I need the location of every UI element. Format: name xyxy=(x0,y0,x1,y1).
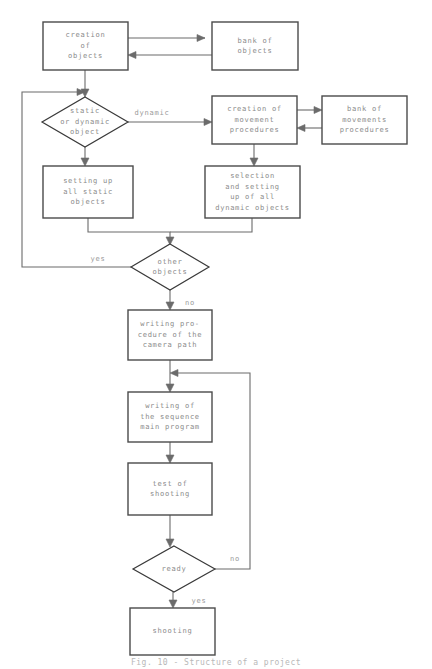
edge-other-no-to-camera xyxy=(166,290,174,310)
node-label-line: selection xyxy=(230,171,275,180)
node-writing-procedure-of-the-camera-path: writing pro-cedure of thecamera path xyxy=(128,310,212,360)
node-ready: ready xyxy=(133,546,215,592)
edge-creation-to-bank-arrowhead xyxy=(197,35,205,42)
edge-ready-no-loop-arrowhead xyxy=(170,370,178,377)
edge-other-no-to-camera-arrowhead xyxy=(166,302,174,310)
node-label-line: dynamic objects xyxy=(215,203,290,212)
label-yes-other-objects: yes xyxy=(91,254,106,263)
node-label-line: writing pro- xyxy=(140,319,200,328)
edge-camera-to-sequence-arrowhead xyxy=(166,384,174,392)
node-writing-of-the-sequence-main-program: writing ofthe sequencemain program xyxy=(128,392,212,442)
edge-sequence-to-test-arrowhead xyxy=(166,455,174,463)
node-setting-up-all-static-objects: setting upall staticobjects xyxy=(43,166,133,218)
edge-movement-to-selection-arrowhead xyxy=(250,158,258,166)
node-label-line: cedure of the xyxy=(138,330,203,339)
edge-bank-to-creation-arrowhead xyxy=(128,52,136,59)
label-no-ready: no xyxy=(230,554,240,563)
node-creation-of-movement-procedures: creation ofmovementprocedures xyxy=(212,96,297,144)
node-label-line: up of all xyxy=(230,192,275,201)
node-label-line: main program xyxy=(140,422,200,431)
node-label-line: creation xyxy=(66,30,106,39)
node-label-line: camera path xyxy=(143,340,198,349)
edge-static-setup-to-other xyxy=(88,218,174,245)
node-label-line: static xyxy=(70,106,100,115)
node-label-line: objects xyxy=(71,197,106,206)
node-label-line: all static xyxy=(63,187,113,196)
figure-caption: Fig. 10 - Structure of a project xyxy=(0,658,432,667)
node-test-of-shooting: test ofshooting xyxy=(128,463,212,515)
edge-movement-to-bank-movements xyxy=(297,107,322,114)
flowchart-page: creationofobjectsbank ofobjectsstaticor … xyxy=(0,0,432,669)
node-label-line: setting up xyxy=(63,176,113,185)
node-label-line: movement xyxy=(235,115,275,124)
node-shooting: shooting xyxy=(130,608,215,655)
node-label-line: and setting xyxy=(225,182,280,191)
node-selection-and-setting-up-of-all-dynamic-objects: selectionand settingup of alldynamic obj… xyxy=(205,166,300,218)
node-label-line: shooting xyxy=(153,626,193,635)
edge-ready-yes-to-shooting-arrowhead xyxy=(169,600,177,608)
node-label-line: of xyxy=(81,41,91,50)
edge-camera-to-sequence xyxy=(166,360,174,392)
node-label-line: or dynamic xyxy=(60,117,110,126)
node-label-line: shooting xyxy=(150,489,190,498)
edge-decision-to-movement xyxy=(128,119,212,126)
edge-bank-to-creation xyxy=(128,52,212,59)
node-label-line: object xyxy=(70,127,100,136)
nodes-layer: creationofobjectsbank ofobjectsstaticor … xyxy=(42,22,407,655)
node-label-line: procedures xyxy=(230,125,280,134)
node-static-or-dynamic-object: staticor dynamicobject xyxy=(42,97,128,147)
edge-selection-to-other xyxy=(170,218,252,232)
node-label-line: other xyxy=(158,257,183,266)
label-dynamic: dynamic xyxy=(135,108,170,117)
edge-test-to-ready-arrowhead xyxy=(166,539,174,547)
flowchart-canvas: creationofobjectsbank ofobjectsstaticor … xyxy=(0,0,432,669)
node-label-line: ready xyxy=(162,564,187,573)
node-label-line: creation of xyxy=(227,104,282,113)
label-no-other-objects: no xyxy=(185,298,195,307)
node-label-line: procedures xyxy=(340,125,390,134)
edge-ready-yes-to-shooting xyxy=(169,592,177,608)
node-bank-of-objects: bank ofobjects xyxy=(212,22,298,70)
edge-decision-to-static-setup-arrowhead xyxy=(81,158,89,166)
edge-decision-to-movement-arrowhead xyxy=(204,119,212,126)
node-creation-of-objects: creationofobjects xyxy=(43,22,128,70)
node-label-line: writing of xyxy=(145,401,195,410)
node-bank-of-movements-procedures: bank ofmovementsprocedures xyxy=(322,96,407,144)
edge-movement-to-selection xyxy=(250,144,258,166)
edge-decision-to-static-setup xyxy=(81,147,89,166)
edge-creation-to-bank xyxy=(128,35,205,42)
node-label-line: objects xyxy=(153,267,188,276)
edge-sequence-to-test xyxy=(166,442,174,463)
edge-test-to-ready xyxy=(166,515,174,547)
node-label-line: objects xyxy=(68,51,103,60)
edge-bank-movements-to-movement xyxy=(297,125,322,132)
edge-movement-to-bank-movements-arrowhead xyxy=(314,107,322,114)
node-other-objects: otherobjects xyxy=(131,244,209,290)
node-label-line: test of xyxy=(153,479,188,488)
edge-bank-movements-to-movement-arrowhead xyxy=(297,125,305,132)
node-label-line: bank of xyxy=(347,104,382,113)
node-label-line: bank of xyxy=(238,36,273,45)
label-yes-ready: yes xyxy=(192,596,207,605)
node-label-line: movements xyxy=(342,115,387,124)
node-label-line: the sequence xyxy=(140,412,200,421)
node-label-line: objects xyxy=(238,46,273,55)
